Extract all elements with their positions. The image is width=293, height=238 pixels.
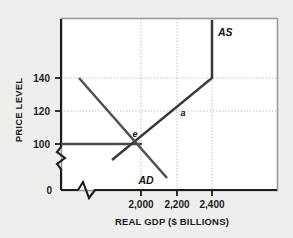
chart-canvas: 140 120 100 0 2,000 2,200 2,400 PRICE LE… [0,0,293,238]
y-tick-label-100: 100 [33,139,50,150]
ad-as-chart-figure: 140 120 100 0 2,000 2,200 2,400 PRICE LE… [0,0,293,238]
x-tick-label-2400: 2,400 [199,199,224,210]
point-a-label: a [180,108,185,118]
x-axis-title: REAL GDP ($ BILLIONS) [115,216,229,227]
y-axis-title: PRICE LEVEL [13,78,24,143]
y-tick-label-120: 120 [33,106,50,117]
as-curve-label: AS [217,26,233,38]
ad-curve-label: AD [137,174,154,186]
plot-panel [62,19,278,191]
x-tick-label-2200: 2,200 [164,199,189,210]
y-tick-label-140: 140 [33,73,50,84]
point-e-label: e [132,129,137,139]
y-tick-label-0: 0 [46,185,52,196]
x-tick-label-2000: 2,000 [128,199,153,210]
